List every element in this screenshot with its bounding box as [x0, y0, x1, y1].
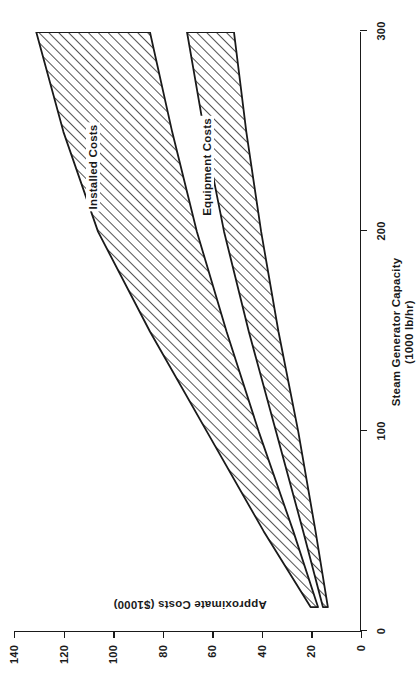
y-axis-title: Approximate Costs ($1000) [80, 599, 300, 611]
y-tick-mark [163, 631, 164, 638]
plot-area: 0100200300 020406080100120140 Installed … [14, 32, 361, 632]
y-tick-mark [311, 631, 312, 638]
y-tick-label: 80 [157, 645, 169, 658]
x-tick-label: 100 [375, 422, 387, 441]
y-tick-label: 140 [8, 645, 20, 664]
y-tick-mark [64, 631, 65, 638]
chart-bands-svg [14, 32, 360, 631]
y-tick-label: 0 [355, 645, 367, 651]
y-tick-mark [361, 631, 362, 638]
x-axis-title-line2: (1000 lb/hr) [403, 32, 416, 632]
x-tick-label: 300 [375, 22, 387, 41]
series-label-installed-costs: Installed Costs [86, 123, 100, 212]
x-axis-title-line1: Steam Generator Capacity [390, 258, 402, 407]
y-tick-mark [212, 631, 213, 638]
y-tick-mark [113, 631, 114, 638]
y-tick-label: 100 [107, 645, 119, 664]
y-tick-label: 120 [58, 645, 70, 664]
plot-inner [14, 32, 360, 631]
y-tick-label: 40 [256, 645, 268, 658]
x-tick-mark [360, 30, 367, 31]
x-tick-label: 200 [375, 222, 387, 241]
y-tick-label: 20 [305, 645, 317, 658]
x-tick-label: 0 [375, 628, 387, 634]
x-tick-mark [360, 230, 367, 231]
y-tick-mark [14, 631, 15, 638]
x-axis-title: Steam Generator Capacity (1000 lb/hr) [390, 32, 416, 632]
x-tick-mark [360, 430, 367, 431]
series-label-equipment-costs: Equipment Costs [200, 116, 214, 218]
y-tick-mark [262, 631, 263, 638]
y-tick-label: 60 [206, 645, 218, 658]
